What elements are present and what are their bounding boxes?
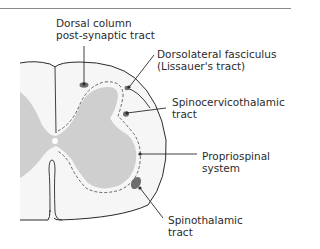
label-line: (Lissauer's tract) [157, 60, 276, 72]
leader-dot [138, 186, 141, 189]
leader-dot [82, 82, 85, 85]
label-propriospinal: Propriospinal system [202, 150, 270, 174]
label-line: system [202, 162, 270, 174]
leader-lissauer [130, 55, 154, 86]
label-line: tract [172, 108, 285, 120]
label-line: tract [168, 226, 243, 238]
leader-dot [127, 85, 130, 88]
leader-dot [125, 111, 128, 114]
label-line: Spinothalamic [168, 214, 243, 226]
label-line: Dorsolateral fasciculus [157, 48, 276, 60]
label-dorsal-column: Dorsal column post-synaptic tract [56, 17, 155, 41]
label-spinothalamic: Spinothalamic tract [168, 214, 243, 238]
central-canal [52, 138, 58, 144]
label-line: Spinocervicothalamic [172, 96, 285, 108]
leader-dot [138, 152, 141, 155]
label-line: Propriospinal [202, 150, 270, 162]
label-line: Dorsal column [56, 17, 155, 29]
label-spinocervicothalamic: Spinocervicothalamic tract [172, 96, 285, 120]
label-line: post-synaptic tract [56, 29, 155, 41]
label-dorsolateral-fasciculus: Dorsolateral fasciculus (Lissauer's trac… [157, 48, 276, 72]
